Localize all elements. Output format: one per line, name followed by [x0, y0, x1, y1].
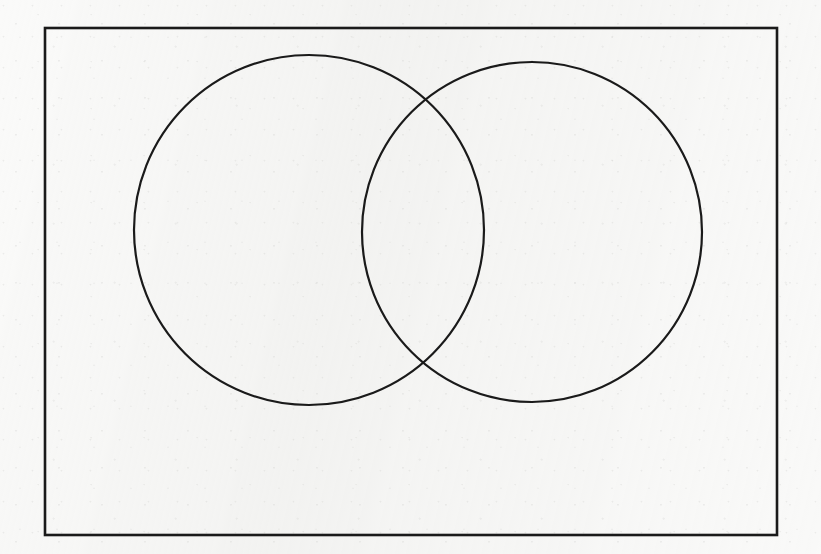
right-circle — [362, 62, 702, 402]
venn-diagram-figure: Two overlapping circles (Venn diagram) — [0, 0, 821, 554]
outer-rectangle — [45, 28, 777, 535]
diagram-canvas: Two overlapping circles (Venn diagram) — [0, 0, 821, 554]
left-circle — [134, 55, 484, 405]
